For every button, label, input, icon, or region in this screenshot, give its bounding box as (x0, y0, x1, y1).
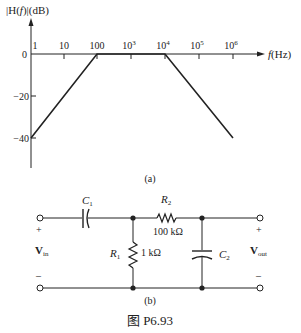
resistor-r2 (157, 214, 176, 222)
vin-plus-sign: + (36, 224, 42, 235)
node-dot (130, 285, 135, 290)
circuit-labels: C1 R2 100 kΩ R1 1 kΩ C2 Vin Vout + – + – (35, 193, 267, 281)
magnitude-curve (31, 54, 233, 138)
c1-label: C1 (82, 194, 93, 208)
x-axis-label: f(Hz) (268, 48, 292, 61)
svg-text:−20: −20 (13, 91, 29, 102)
svg-text:0: 0 (22, 49, 27, 60)
r2-value: 100 kΩ (153, 226, 183, 237)
figure-title: 图 P6.93 (127, 313, 173, 328)
r1-value: 1 kΩ (141, 247, 161, 258)
svg-text:105: 105 (190, 39, 204, 51)
svg-text:103: 103 (122, 39, 136, 51)
svg-text:1: 1 (33, 40, 38, 51)
vout-minus-sign: – (255, 270, 262, 281)
vout-label: Vout (250, 244, 267, 258)
caption-b: (b) (144, 295, 156, 307)
node-dot (130, 215, 135, 220)
svg-text:104: 104 (156, 39, 170, 51)
x-axis-arrow-icon (257, 52, 265, 57)
terminal-vout-minus (257, 285, 263, 291)
node-dot (199, 215, 204, 220)
svg-text:−40: −40 (13, 133, 29, 144)
vin-label: Vin (35, 244, 49, 258)
x-tick-labels: 1 10 100 103 104 105 106 (33, 39, 239, 51)
terminal-vin-plus (37, 215, 43, 221)
y-tick-labels: 0 −20 −40 (13, 49, 29, 144)
terminal-vin-minus (37, 285, 43, 291)
r1-label: R1 (109, 247, 121, 261)
vin-minus-sign: – (35, 270, 42, 281)
svg-text:100: 100 (90, 40, 105, 51)
y-axis-label: |H(f)|(dB) (6, 4, 49, 17)
y-axis-arrow-icon (29, 18, 34, 26)
r2-label: R2 (160, 193, 172, 207)
svg-text:106: 106 (224, 39, 238, 51)
svg-text:10: 10 (59, 40, 69, 51)
terminal-vout-plus (257, 215, 263, 221)
figure: |H(f)|(dB) f(Hz) 1 10 100 103 104 105 10… (0, 0, 301, 333)
caption-a: (a) (144, 173, 155, 185)
node-dot (199, 285, 204, 290)
c2-label: C2 (219, 248, 230, 262)
vout-plus-sign: + (256, 224, 262, 235)
bode-plot: |H(f)|(dB) f(Hz) 1 10 100 103 104 105 10… (6, 4, 292, 185)
resistor-r1 (129, 242, 137, 268)
